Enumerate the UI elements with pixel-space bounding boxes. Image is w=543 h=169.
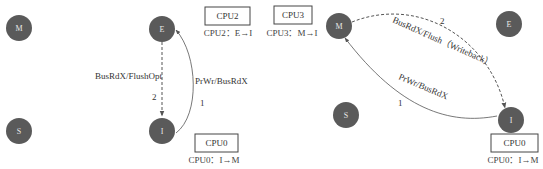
right-cpu3-box: CPU3 CPU3：M→I — [266, 6, 317, 38]
svg-text:M: M — [335, 22, 342, 31]
left-state-m: M — [6, 15, 32, 41]
svg-text:CPU0: CPU0 — [205, 138, 228, 148]
right-panel: BusRdX/Flush（Writeback） 2 PrWr/BusRdX 1 … — [266, 6, 538, 165]
left-state-s: S — [6, 118, 32, 144]
svg-text:CPU0: CPU0 — [503, 138, 526, 148]
svg-text:CPU2: CPU2 — [216, 11, 238, 21]
left-state-i: I — [149, 118, 175, 144]
right-transition-order-2: 2 — [440, 16, 445, 26]
mesi-transition-diagram: BusRdX/FlushOpt 2 PrWr/BusRdX 1 M E S I … — [0, 0, 543, 169]
right-cpu3-caption: CPU3：M→I — [266, 28, 317, 38]
left-transition-order-2: 2 — [152, 92, 157, 102]
left-panel: BusRdX/FlushOpt 2 PrWr/BusRdX 1 M E S I … — [6, 7, 252, 165]
svg-text:CPU3: CPU3 — [282, 10, 305, 20]
right-state-m: M — [326, 13, 352, 39]
right-state-s: S — [333, 102, 359, 128]
right-state-e: E — [496, 11, 522, 37]
left-cpu2-caption: CPU2：E→I — [204, 28, 253, 38]
right-cpu0-caption: CPU0：I→M — [487, 155, 538, 165]
svg-text:I: I — [161, 127, 164, 136]
left-cpu2-box: CPU2 CPU2：E→I — [204, 7, 253, 38]
right-state-i: I — [498, 107, 524, 133]
svg-text:M: M — [15, 24, 22, 33]
svg-text:I: I — [510, 116, 513, 125]
left-cpu0-caption: CPU0：I→M — [188, 155, 239, 165]
left-transition-label-prwr: PrWr/BusRdX — [195, 76, 248, 86]
right-transition-order-1: 1 — [398, 98, 403, 108]
left-state-e: E — [149, 16, 175, 42]
left-cpu0-box: CPU0 CPU0：I→M — [188, 134, 239, 165]
left-transition-label-busrdx: BusRdX/FlushOpt — [95, 71, 163, 81]
svg-text:E: E — [160, 25, 165, 34]
svg-text:S: S — [344, 111, 348, 120]
right-cpu0-box: CPU0 CPU0：I→M — [487, 134, 538, 165]
left-transition-order-1: 1 — [200, 98, 205, 108]
svg-text:E: E — [507, 20, 512, 29]
left-transition-i-to-e — [176, 30, 193, 133]
svg-text:S: S — [17, 127, 21, 136]
